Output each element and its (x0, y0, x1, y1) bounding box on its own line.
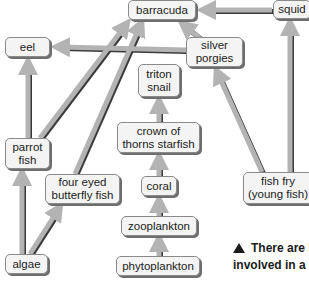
figure-caption: There are lot involved in a cor (233, 240, 309, 274)
node-label-line1: fish fry (261, 175, 295, 188)
caption-line1: There are lot (251, 241, 309, 255)
node-label-line2: fish (19, 154, 37, 167)
node-label-line1: triton (146, 68, 172, 81)
node-parrot-fish: parrot fish (5, 138, 50, 169)
node-silver-porgies: silver porgies (186, 37, 243, 67)
arrow-fishfry-to-porgies (218, 74, 262, 172)
node-label-line1: parrot (12, 141, 42, 154)
node-label: barracuda (136, 4, 188, 17)
node-coral: coral (141, 176, 177, 196)
node-triton-snail: triton snail (138, 64, 180, 97)
node-label-line2: porgies (196, 52, 234, 65)
node-label: squid (278, 3, 306, 16)
node-label-line2: butterfly fish (52, 189, 114, 202)
node-phytoplankton: phytoplankton (116, 256, 200, 276)
node-fish-fry: fish fry (young fish) (243, 172, 309, 204)
node-label-line1: four eyed (59, 176, 107, 189)
node-eel: eel (5, 37, 50, 57)
node-four-eyed-butterfly-fish: four eyed butterfly fish (45, 174, 120, 204)
node-label-line1: silver (201, 39, 228, 52)
node-label-line2: thorns starfish (122, 138, 194, 151)
arrow-algae-to-butterflyfish (30, 210, 58, 254)
node-label: zooplankton (128, 220, 190, 233)
node-squid: squid (273, 0, 309, 19)
arrow-parrotfish-to-barracuda (40, 26, 125, 138)
node-label-line2: (young fish) (248, 188, 308, 201)
node-label: phytoplankton (122, 260, 194, 273)
node-algae: algae (5, 254, 48, 274)
node-label-line1: crown of (137, 125, 180, 138)
node-label: algae (12, 258, 40, 271)
arrow-porgies-to-eel (60, 47, 186, 50)
node-label-line2: snail (147, 81, 171, 94)
node-zooplankton: zooplankton (121, 216, 197, 236)
triangle-bullet-icon (233, 243, 245, 253)
caption-line2: involved in a cor (233, 258, 309, 272)
node-barracuda: barracuda (128, 0, 196, 20)
node-label: eel (20, 41, 35, 54)
node-crown-of-thorns-starfish: crown of thorns starfish (117, 122, 200, 153)
node-label: coral (147, 180, 172, 193)
